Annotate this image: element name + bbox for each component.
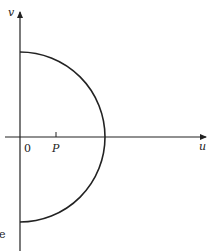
u-axis-label: u [199, 140, 206, 153]
edge-text: e [0, 228, 6, 241]
v-axis-label: v [8, 6, 15, 19]
diagram-canvas: v u 0 P e [0, 0, 210, 251]
origin-label: 0 [24, 142, 31, 155]
point-p-label: P [51, 142, 60, 155]
